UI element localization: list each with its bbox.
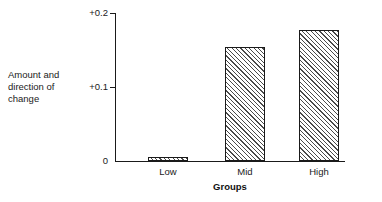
- y-axis-line: [115, 13, 116, 162]
- x-category-label-mid: Mid: [205, 166, 285, 178]
- x-category-label-high: High: [279, 166, 359, 178]
- y-tick-zero-label: 0: [103, 156, 108, 166]
- y-tick-top-mark: [110, 13, 115, 14]
- bar-chart-figure: Amount and direction of change +0.2 +0.1…: [0, 0, 382, 202]
- bar-mid: [225, 47, 265, 161]
- y-tick-mid: +0.1: [0, 82, 108, 92]
- y-tick-mid-label: +0.1: [89, 82, 108, 92]
- bar-low: [148, 157, 188, 161]
- bar-high: [299, 30, 339, 161]
- y-tick-top: +0.2: [0, 8, 108, 18]
- x-axis-line: [115, 161, 345, 162]
- x-axis-title: Groups: [115, 181, 345, 192]
- y-tick-mid-mark: [110, 87, 115, 88]
- x-category-label-low: Low: [128, 166, 208, 178]
- y-tick-zero: 0: [0, 156, 108, 166]
- y-tick-top-label: +0.2: [89, 8, 108, 18]
